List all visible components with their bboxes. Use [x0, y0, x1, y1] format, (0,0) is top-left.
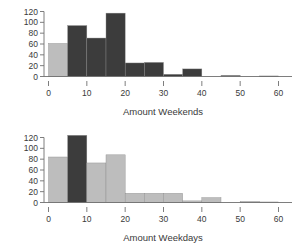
x-tick-label: 0	[46, 88, 51, 98]
x-axis-ticks: 0102030405060	[46, 81, 283, 98]
x-tick-label: 20	[120, 88, 130, 98]
bar-40-45	[202, 198, 221, 203]
y-axis-ticks: 020406080100120	[24, 133, 44, 208]
figure-container: 0204060801001200102030405060Amount Weeke…	[0, 0, 298, 251]
bar-20-25	[125, 63, 144, 77]
x-tick-label: 50	[235, 214, 245, 224]
chart-panel-weekends: 0204060801001200102030405060Amount Weeke…	[0, 0, 298, 125]
x-tick-label: 60	[274, 214, 284, 224]
bar-15-20	[106, 13, 125, 76]
x-tick-label: 0	[46, 214, 51, 224]
chart-panel-weekdays: 0204060801001200102030405060Amount Weekd…	[0, 126, 298, 251]
bar-0-5	[49, 43, 68, 76]
bar-15-20	[106, 155, 125, 203]
y-tick-label: 80	[29, 154, 39, 164]
bar-20-25	[125, 193, 144, 202]
x-axis-title: Amount Weekends	[123, 106, 203, 117]
y-tick-label: 100	[24, 17, 38, 27]
x-tick-label: 40	[197, 214, 207, 224]
y-tick-label: 40	[29, 50, 39, 60]
y-tick-label: 60	[29, 39, 39, 49]
bar-10-15	[87, 163, 106, 203]
bar-0-5	[49, 157, 68, 203]
bar-25-30	[144, 62, 163, 76]
y-tick-label: 120	[24, 133, 38, 143]
x-tick-label: 50	[235, 88, 245, 98]
y-tick-label: 0	[33, 72, 38, 82]
bars-group	[49, 13, 279, 77]
bar-25-30	[144, 193, 163, 202]
y-tick-label: 40	[29, 176, 39, 186]
y-tick-label: 80	[29, 28, 39, 38]
x-tick-label: 20	[120, 214, 130, 224]
y-tick-label: 0	[33, 198, 38, 208]
bar-30-35	[164, 193, 183, 202]
bars-group	[49, 135, 279, 202]
y-tick-label: 20	[29, 187, 39, 197]
plot-area: 0204060801001200102030405060	[24, 7, 292, 98]
bar-5-10	[68, 135, 87, 202]
x-tick-label: 40	[197, 88, 207, 98]
bar-35-40	[183, 69, 202, 77]
x-axis-title: Amount Weekdays	[123, 232, 203, 243]
bar-10-15	[87, 38, 106, 76]
x-tick-label: 10	[82, 88, 92, 98]
x-tick-label: 60	[274, 88, 284, 98]
x-axis-ticks: 0102030405060	[46, 207, 283, 224]
histogram-weekdays: 0204060801001200102030405060Amount Weekd…	[0, 126, 298, 251]
y-tick-label: 20	[29, 61, 39, 71]
plot-area: 0204060801001200102030405060	[24, 133, 292, 224]
y-tick-label: 60	[29, 165, 39, 175]
y-axis-ticks: 020406080100120	[24, 7, 44, 82]
x-tick-label: 30	[159, 214, 169, 224]
bar-5-10	[68, 26, 87, 77]
histogram-weekends: 0204060801001200102030405060Amount Weeke…	[0, 0, 298, 125]
y-tick-label: 100	[24, 143, 38, 153]
x-tick-label: 30	[159, 88, 169, 98]
y-tick-label: 120	[24, 7, 38, 17]
x-tick-label: 10	[82, 214, 92, 224]
